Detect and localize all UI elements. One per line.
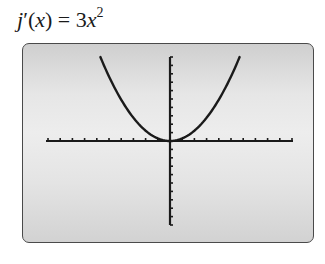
graph-plot: [0, 0, 325, 264]
